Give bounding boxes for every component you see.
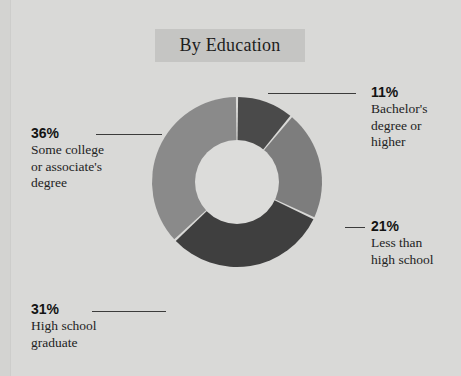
leader-line-bachelors [268, 93, 356, 94]
callout-label-somecollege: Some college or associate's degree [31, 142, 156, 192]
callout-label-bachelors: Bachelor's degree or higher [371, 101, 459, 151]
callout-less-than-high-school: 21% Less than high school [371, 219, 459, 268]
callout-bachelors-degree-or-higher: 11% Bachelor's degree or higher [371, 85, 459, 151]
callout-value-highschool: 31% [31, 302, 161, 317]
donut-center-hole [195, 140, 279, 224]
callout-label-somecollege-line1: Some college [31, 142, 104, 157]
callout-label-highschool-line2: graduate [31, 335, 77, 350]
callout-label-bachelors-line1: Bachelor's [371, 101, 427, 116]
callout-value-lessthan: 21% [371, 219, 459, 234]
callout-label-somecollege-line3: degree [31, 175, 67, 190]
callout-value-bachelors: 11% [371, 85, 459, 100]
chart-container: By Education 11% Bachelor's degree or hi… [0, 0, 461, 376]
callout-label-lessthan-line1: Less than [371, 235, 422, 250]
callout-high-school-graduate: 31% High school graduate [31, 302, 161, 351]
callout-label-bachelors-line2: degree or [371, 118, 422, 133]
leader-line-lessthan [345, 227, 365, 228]
callout-label-highschool: High school graduate [31, 318, 161, 351]
callout-label-bachelors-line3: higher [371, 134, 406, 149]
callout-label-highschool-line1: High school [31, 318, 97, 333]
callout-label-lessthan-line2: high school [371, 252, 434, 267]
callout-some-college-or-associates: 36% Some college or associate's degree [31, 126, 156, 192]
callout-value-somecollege: 36% [31, 126, 156, 141]
callout-label-somecollege-line2: or associate's [31, 159, 102, 174]
callout-label-lessthan: Less than high school [371, 235, 459, 268]
